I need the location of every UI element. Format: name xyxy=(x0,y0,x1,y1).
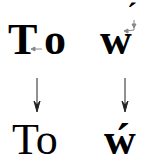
accent-adjust-arrow-icon xyxy=(124,20,136,33)
kern-arrow-icon xyxy=(31,47,42,51)
down-arrow-left-icon xyxy=(34,78,40,112)
down-arrow-right-icon xyxy=(122,78,128,112)
arrows-layer xyxy=(0,0,146,167)
